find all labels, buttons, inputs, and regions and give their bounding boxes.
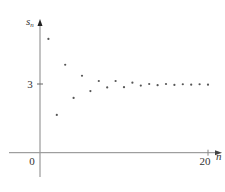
data-point: [207, 84, 209, 86]
x-tick-label: 0: [29, 155, 35, 167]
data-point: [190, 84, 192, 86]
chart: 0203 n sn: [0, 0, 225, 192]
data-point: [64, 64, 66, 66]
x-axis-label: n: [216, 150, 222, 162]
data-point: [47, 38, 49, 40]
data-point: [81, 75, 83, 77]
data-points: [47, 38, 209, 116]
data-point: [157, 84, 159, 86]
data-point: [182, 83, 184, 85]
data-point: [98, 80, 100, 82]
ticks: 0203: [27, 78, 211, 167]
data-point: [173, 84, 175, 86]
data-point: [115, 80, 117, 82]
x-tick-label: 20: [200, 155, 212, 167]
y-axis-arrow-icon: [38, 19, 43, 26]
data-point: [123, 86, 125, 88]
data-point: [89, 90, 91, 92]
data-point: [140, 85, 142, 87]
y-tick-label: 3: [27, 78, 33, 90]
data-point: [199, 83, 201, 85]
data-point: [73, 97, 75, 99]
data-point: [165, 83, 167, 85]
data-point: [131, 82, 133, 84]
data-point: [106, 86, 108, 88]
data-point: [148, 83, 150, 85]
data-point: [56, 114, 58, 116]
axes: [9, 19, 222, 177]
y-axis-label: sn: [26, 15, 34, 29]
